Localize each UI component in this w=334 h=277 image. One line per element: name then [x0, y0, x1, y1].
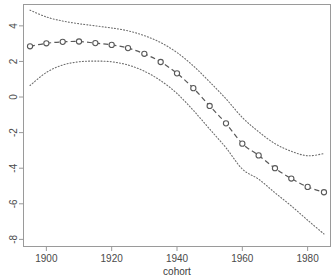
- data-point-marker: [272, 166, 277, 171]
- data-point-marker: [109, 42, 114, 47]
- data-point-marker: [305, 184, 310, 189]
- data-point-marker: [125, 46, 130, 51]
- data-point-marker: [44, 41, 49, 46]
- data-point-marker: [76, 39, 81, 44]
- y-tick-label: -8: [8, 235, 19, 244]
- data-point-marker: [289, 176, 294, 181]
- chart-plot-area: 19001920194019601980 420-2-4-6-8 cohort: [0, 0, 334, 277]
- data-point-marker: [223, 121, 228, 126]
- x-tick-label: 1900: [35, 253, 58, 264]
- chart-svg: 19001920194019601980 420-2-4-6-8 cohort: [0, 0, 334, 277]
- data-point-marker: [60, 39, 65, 44]
- x-axis-title: cohort: [163, 266, 191, 277]
- y-tick-label: -2: [8, 128, 19, 137]
- x-tick-label: 1920: [101, 253, 124, 264]
- x-tick-label: 1980: [297, 253, 320, 264]
- data-point-marker: [191, 86, 196, 91]
- y-tick-label: 4: [8, 23, 19, 29]
- x-tick-label: 1960: [231, 253, 254, 264]
- x-tick-label: 1940: [166, 253, 189, 264]
- data-point-marker: [174, 71, 179, 76]
- chart-background: [0, 0, 334, 277]
- data-point-marker: [240, 141, 245, 146]
- y-tick-label: -6: [8, 199, 19, 208]
- data-point-marker: [93, 41, 98, 46]
- y-tick-label: 2: [8, 58, 19, 64]
- data-point-marker: [256, 153, 261, 158]
- data-point-marker: [207, 103, 212, 108]
- data-point-marker: [321, 190, 326, 195]
- data-point-marker: [142, 51, 147, 56]
- data-point-marker: [158, 59, 163, 64]
- data-point-marker: [27, 44, 32, 49]
- y-tick-label: 0: [8, 94, 19, 100]
- y-tick-label: -4: [8, 163, 19, 172]
